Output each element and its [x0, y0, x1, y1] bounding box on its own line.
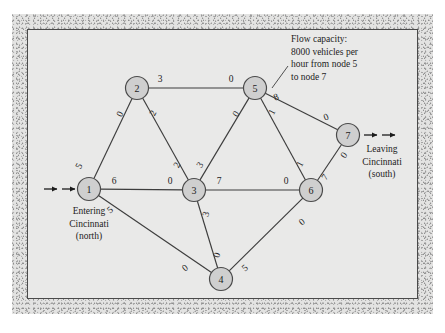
edge-1-3 — [100, 189, 182, 190]
node-label-1: 1 — [87, 184, 92, 195]
leaving-caption-line-3: (south) — [369, 169, 396, 180]
node-5[interactable]: 5 — [244, 77, 267, 100]
flow-capacity-note-line-1: Flow capacity: — [291, 34, 347, 44]
edge-label-2-3-to: 2 — [171, 160, 182, 169]
edge-label-5-6-from: 1 — [266, 107, 277, 116]
edge-label-4-6-from: 5 — [240, 262, 250, 273]
node-3[interactable]: 3 — [183, 179, 206, 202]
edge-label-4-6-to: 0 — [297, 216, 307, 227]
node-7[interactable]: 7 — [337, 124, 360, 147]
edge-label-2-5-from: 3 — [158, 74, 163, 84]
edge-3-4 — [197, 201, 217, 268]
leaving-caption-line-1: Leaving — [366, 144, 397, 154]
entering-caption-line-1: Entering — [73, 206, 106, 216]
edge-labels-layer: 503022605030703011807050 — [73, 74, 349, 273]
edge-label-6-7-to: 0 — [339, 150, 350, 160]
edge-label-1-4-to: 0 — [180, 262, 190, 273]
annotation-layer: Flow capacity:8000 vehicles perhour from… — [272, 34, 359, 88]
edge-label-3-6-to: 0 — [284, 176, 289, 186]
flow-capacity-note-line-4: to node 7 — [291, 72, 327, 82]
edge-label-3-6-from: 7 — [217, 176, 222, 186]
entering-caption-line-2: Cincinnati — [69, 219, 109, 229]
edge-4-6 — [229, 198, 303, 271]
node-4[interactable]: 4 — [210, 268, 233, 291]
leaving-caption-line-2: Cincinnati — [362, 157, 402, 167]
edge-label-1-3-from: 6 — [112, 176, 117, 186]
edge-label-2-3-from: 2 — [147, 108, 158, 117]
edge-label-5-7-from: 8 — [272, 91, 280, 102]
node-1[interactable]: 1 — [78, 178, 101, 201]
edge-label-5-7-to: 0 — [322, 111, 330, 122]
node-2[interactable]: 2 — [126, 77, 149, 100]
node-label-2: 2 — [135, 83, 140, 94]
captions-layer: EnteringCincinnati(north)LeavingCincinna… — [69, 144, 402, 242]
flow-capacity-note-line-3: hour from node 5 — [291, 59, 357, 69]
node-label-5: 5 — [253, 83, 258, 94]
edge-label-3-5-to: 0 — [231, 109, 242, 119]
edge-label-6-7-from: 7 — [320, 172, 331, 182]
edge-label-1-2-to: 0 — [114, 109, 125, 118]
network-flow-figure: 1234567 503022605030703011807050 Enterin… — [0, 0, 445, 333]
flow-capacity-note-line-2: 8000 vehicles per — [291, 47, 359, 57]
network-graph: 1234567 503022605030703011807050 Enterin… — [0, 0, 445, 333]
edge-label-3-5-from: 3 — [195, 160, 206, 170]
edge-label-2-5-to: 0 — [229, 74, 234, 84]
node-label-6: 6 — [309, 185, 314, 196]
node-label-7: 7 — [346, 130, 351, 141]
node-label-4: 4 — [219, 274, 224, 285]
edge-label-1-2-from: 5 — [73, 161, 84, 170]
flow-capacity-note-leader-line — [272, 66, 288, 88]
edge-1-4 — [99, 195, 212, 272]
edge-1-2 — [94, 98, 132, 178]
edge-3-5 — [200, 98, 249, 180]
edge-label-5-6-to: 1 — [294, 159, 305, 168]
edge-label-1-3-to: 0 — [168, 176, 173, 186]
edge-label-3-4-to: 0 — [212, 251, 223, 259]
node-label-3: 3 — [192, 185, 197, 196]
entering-caption-line-3: (north) — [76, 231, 102, 242]
node-6[interactable]: 6 — [300, 179, 323, 202]
